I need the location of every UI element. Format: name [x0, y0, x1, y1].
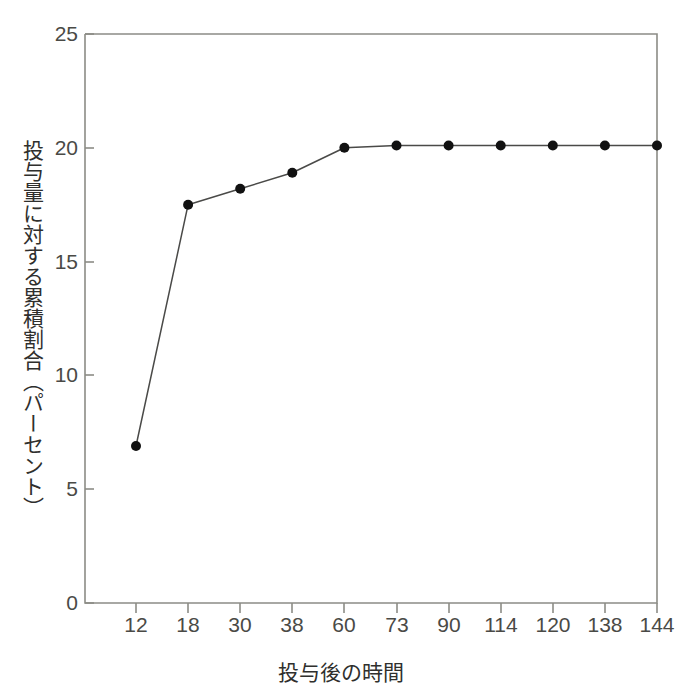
- x-tick-label-144: 144: [627, 613, 682, 637]
- x-tick-label-138: 138: [575, 613, 635, 637]
- x-tick-label-73: 73: [367, 613, 427, 637]
- x-axis-title: 投与後の時間: [0, 656, 682, 686]
- x-tick-label-90: 90: [419, 613, 479, 637]
- chart-figure: 投与量に対する累積割合（パーセント） 25 20 15 10 5 0: [0, 0, 682, 699]
- x-tick-label-18: 18: [158, 613, 218, 637]
- x-tick-label-30: 30: [210, 613, 270, 637]
- x-tick-label-120: 120: [523, 613, 583, 637]
- x-tick-label-60: 60: [314, 613, 374, 637]
- x-tick-label-38: 38: [262, 613, 322, 637]
- x-tick-label-12: 12: [106, 613, 166, 637]
- x-tick-label-114: 114: [471, 613, 531, 637]
- x-axis-tick-labels: 12 18 30 38 60 73 90 114 120 138 144: [0, 0, 682, 699]
